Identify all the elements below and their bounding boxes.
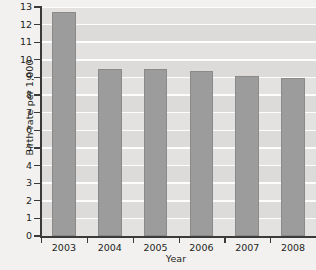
y-axis-title: Birth rate per 1,000: [24, 13, 35, 203]
plot-band: [41, 95, 316, 113]
y-tick-mark: [34, 130, 40, 131]
gridline: [41, 24, 316, 26]
plot-band: [41, 25, 316, 43]
y-tick-mark: [34, 94, 40, 95]
y-tick-mark: [34, 165, 40, 166]
y-tick-mark: [34, 59, 40, 60]
bar: [52, 12, 76, 236]
gridline: [41, 182, 316, 184]
x-tick-label: 2006: [178, 243, 224, 253]
gridline: [41, 94, 316, 96]
gridline: [41, 59, 316, 61]
y-tick-label: 13: [0, 2, 32, 12]
plot-band: [41, 201, 316, 219]
x-tick-label: 2008: [270, 243, 316, 253]
gridline: [41, 112, 316, 114]
plot-band: [41, 130, 316, 148]
gridline: [41, 165, 316, 167]
x-tick-label: 2007: [224, 243, 270, 253]
x-tick-label: 2003: [41, 243, 87, 253]
gridline: [41, 147, 316, 149]
y-tick-mark: [34, 183, 40, 184]
y-tick-mark: [34, 24, 40, 25]
plot-band: [41, 60, 316, 78]
y-tick-mark: [34, 200, 40, 201]
gridline: [41, 200, 316, 202]
gridline: [41, 7, 316, 8]
bar: [98, 69, 122, 236]
x-axis-title: Year: [40, 253, 312, 264]
y-axis-line: [40, 6, 42, 237]
y-tick-label: 1: [0, 213, 32, 223]
gridline: [41, 77, 316, 79]
y-tick-label: 0: [0, 231, 32, 241]
y-tick-mark: [34, 77, 40, 78]
x-tick-label: 2004: [87, 243, 133, 253]
y-tick-mark: [34, 147, 40, 148]
bar-chart: 012345678910111213 200320042005200620072…: [0, 0, 316, 270]
bar: [190, 71, 214, 236]
plot-band: [41, 166, 316, 184]
plot-area: [41, 7, 316, 236]
bar: [144, 69, 168, 236]
y-tick-mark: [34, 42, 40, 43]
y-tick-mark: [34, 6, 40, 7]
x-tick-label: 2005: [133, 243, 179, 253]
y-tick-mark: [34, 112, 40, 113]
gridline: [41, 41, 316, 43]
y-tick-mark: [34, 218, 40, 219]
gridline: [41, 218, 316, 220]
y-tick-mark: [34, 235, 40, 236]
gridline: [41, 130, 316, 132]
bar: [281, 78, 305, 236]
bar: [235, 76, 259, 236]
